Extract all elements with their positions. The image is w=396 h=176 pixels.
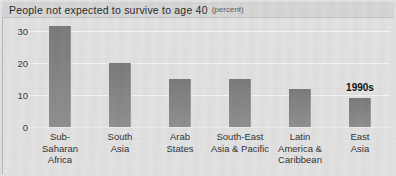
x-axis-category-label-line: Africa [30,154,90,166]
period-annotation: 1990s [330,82,390,93]
gridline [30,95,390,96]
gridline [30,63,390,64]
x-axis-category-label: ArabStates [150,131,210,154]
bar [229,79,251,127]
bar [289,89,311,128]
bar [169,79,191,127]
x-axis-category-label-line: Asia & Pacific [210,143,270,155]
gridline [30,31,390,32]
chart-title-bar: People not expected to survive to age 40… [2,2,394,18]
x-axis-category-label-line: South [90,131,150,143]
x-axis-category-label-line: Latin [270,131,330,143]
x-axis-baseline [30,127,390,128]
y-axis-tick-label: 30 [6,25,28,36]
y-axis-tick-label: 10 [6,89,28,100]
x-axis-category-label-line: Asia [90,143,150,155]
x-axis-category-label-line: Caribbean [270,154,330,166]
x-axis-category-label: Sub-SaharanAfrica [30,131,90,166]
bar [349,98,371,127]
x-axis-category-label-line: East [330,131,390,143]
x-axis-category-label: South-EastAsia & Pacific [210,131,270,154]
x-axis-labels: Sub-SaharanAfricaSouthAsiaArabStatesSout… [30,131,390,175]
bar [49,26,71,127]
x-axis-category-label-line: South-East [210,131,270,143]
y-axis-tick-label: 0 [6,122,28,133]
bar [109,63,131,127]
y-axis: 0102030 [4,21,28,127]
plot-area [30,21,390,127]
chart-title-unit: (percent) [212,5,244,14]
x-axis-category-label-line: Arab [150,131,210,143]
x-axis-category-label-line: States [150,143,210,155]
x-axis-category-label: EastAsia [330,131,390,154]
x-axis-category-label: SouthAsia [90,131,150,154]
chart-figure: People not expected to survive to age 40… [0,0,396,176]
chart-title: People not expected to survive to age 40 [2,4,208,16]
x-axis-category-label-line: America & [270,143,330,155]
x-axis-category-label: LatinAmerica &Caribbean [270,131,330,166]
y-axis-tick-label: 20 [6,57,28,68]
x-axis-category-label-line: Asia [330,143,390,155]
x-axis-category-label-line: Saharan [30,143,90,155]
x-axis-category-label-line: Sub- [30,131,90,143]
